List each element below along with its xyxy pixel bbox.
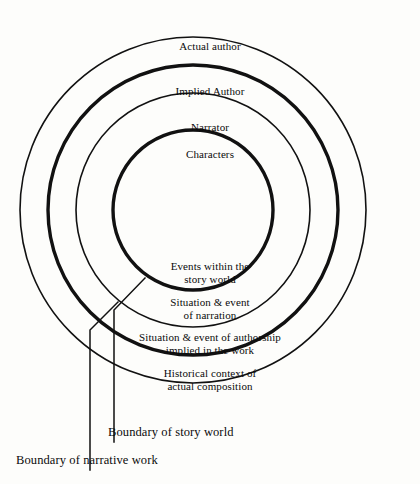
ring-label-historical-context-line1: Historical context of: [0, 367, 420, 380]
callout-label-boundary-of-story-world: Boundary of story world: [108, 425, 234, 439]
ring-label-events-story-world-line1: Events within the: [0, 260, 420, 273]
ring-label-situation-authorship: Situation & event of authorship implied …: [0, 331, 420, 356]
ring-label-characters: Characters: [0, 148, 420, 161]
ring-label-actual-author: Actual author: [0, 40, 420, 53]
narrative-levels-diagram: Actual author Implied Author Narrator Ch…: [0, 0, 420, 484]
ring-label-situation-narration: Situation & event of narration: [0, 296, 420, 321]
ring-label-historical-context-line2: actual composition: [0, 380, 420, 393]
ring-label-historical-context: Historical context of actual composition: [0, 367, 420, 392]
ring-label-situation-narration-line1: Situation & event: [0, 296, 420, 309]
ring-label-situation-authorship-line2: implied in the work: [0, 344, 420, 357]
ring-label-situation-authorship-line1: Situation & event of authorship: [0, 331, 420, 344]
diagram-canvas: [0, 0, 420, 484]
ring-label-situation-narration-line2: of narration: [0, 309, 420, 322]
ring-label-narrator: Narrator: [0, 121, 420, 134]
ring-label-implied-author: Implied Author: [0, 85, 420, 98]
callout-label-boundary-of-narrative-work: Boundary of narrative work: [16, 453, 158, 467]
ring-label-events-story-world-line2: story world: [0, 273, 420, 286]
ring-label-events-story-world: Events within the story world: [0, 260, 420, 285]
